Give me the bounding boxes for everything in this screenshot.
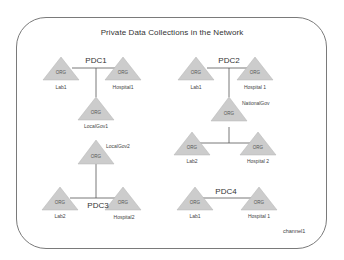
org-node-pdc4-lab1: ORG — [177, 187, 213, 210]
svg-text:ORG: ORG — [224, 111, 235, 116]
org-label-pdc1-hospital1: Hospital1 — [113, 84, 134, 90]
org-node-pdc1-lab1: ORG — [43, 57, 79, 80]
org-label-pdc4-lab1: Lab1 — [189, 213, 200, 219]
svg-text:ORG: ORG — [254, 200, 265, 205]
org-label-pdc3-hospital2: Hospital2 — [114, 214, 135, 220]
org-node-pdc1-hospital1: ORG — [105, 57, 141, 80]
svg-text:ORG: ORG — [187, 145, 198, 150]
svg-text:ORG: ORG — [91, 110, 102, 115]
org-node-pdc3-lab2: ORG — [42, 187, 78, 210]
org-label-pdc1-lab1: Lab1 — [55, 84, 66, 90]
org-node-pdc1-localgov1: ORG — [78, 97, 114, 120]
org-label-pdc3-lab2: Lab2 — [54, 213, 65, 219]
svg-text:ORG: ORG — [250, 70, 261, 75]
pdc2-label: PDC2 — [218, 56, 239, 65]
svg-text:ORG: ORG — [118, 200, 129, 205]
org-node-pdc2-hospital2: ORG — [240, 132, 276, 155]
svg-text:ORG: ORG — [253, 145, 264, 150]
pdc3-label: PDC3 — [87, 201, 108, 210]
svg-text:ORG: ORG — [118, 70, 129, 75]
org-node-pdc4-hospital1: ORG — [241, 187, 277, 210]
org-node-pdc2-hospital1: ORG — [237, 57, 273, 80]
org-label-pdc2-lab1: Lab1 — [190, 84, 201, 90]
org-label-pdc2-hospital2: Hospital 2 — [247, 158, 269, 164]
org-label-pdc1-localgov1: LocalGov1 — [84, 123, 108, 129]
svg-text:ORG: ORG — [190, 200, 201, 205]
pdc1-label: PDC1 — [85, 56, 106, 65]
pdc4-label: PDC4 — [215, 187, 236, 196]
svg-text:ORG: ORG — [191, 70, 202, 75]
svg-text:ORG: ORG — [56, 70, 67, 75]
svg-text:ORG: ORG — [91, 154, 102, 159]
org-label-pdc2-lab2: Lab2 — [186, 158, 197, 164]
org-label-pdc4-hospital1: Hospital 1 — [248, 213, 270, 219]
org-node-pdc3-hospital2: ORG — [105, 187, 141, 210]
svg-text:ORG: ORG — [55, 200, 66, 205]
diagram-canvas: Private Data Collections in the Network … — [0, 0, 344, 260]
diagram-graphics: ORG ORG ORG ORG ORG ORG ORG ORG — [0, 0, 344, 260]
org-label-pdc3-localgov2: LocalGov2 — [106, 143, 130, 149]
org-node-pdc2-lab2: ORG — [174, 132, 210, 155]
org-label-pdc2-nationalgov: NationalGov — [242, 100, 270, 106]
org-label-pdc2-hospital1: Hospital 1 — [244, 84, 266, 90]
channel-label: channel1 — [283, 228, 305, 234]
org-node-pdc2-lab1: ORG — [178, 57, 214, 80]
